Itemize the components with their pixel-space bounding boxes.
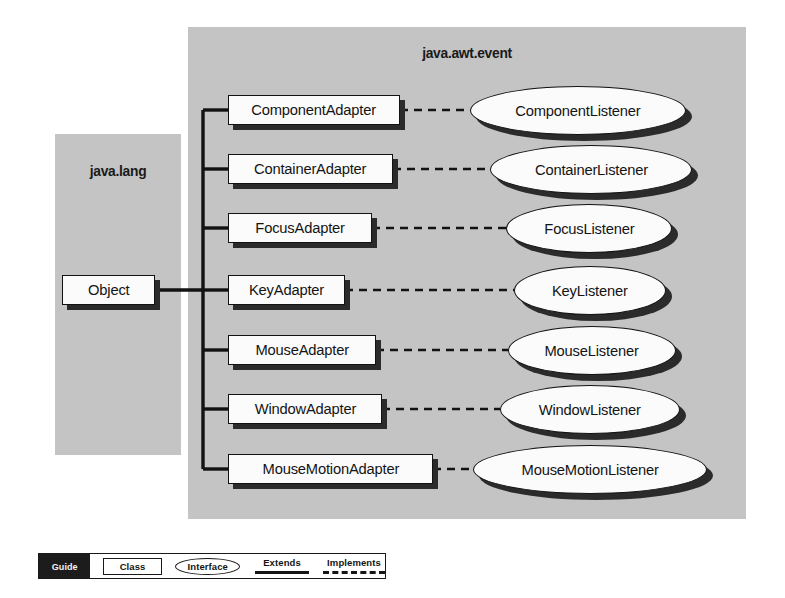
class-label: Object [88,281,129,299]
interface-ellipse: MouseListener [508,326,676,375]
class-box: WindowAdapter [228,394,382,424]
package-title-java-lang: java.lang [60,162,176,179]
legend-bar: Guide Class Interface Extends Implements [38,553,386,579]
class-node-object[interactable]: Object [62,275,155,305]
interface-label: MouseMotionListener [521,461,658,479]
legend-item-extends: Extends [255,554,309,578]
legend-implements-line-icon [323,571,385,574]
class-box: Object [62,275,155,305]
class-label: MouseAdapter [255,341,349,359]
interface-node-container-listener[interactable]: ContainerListener [490,145,692,194]
legend-guide-label: Guide [51,561,77,572]
package-title-java-awt-event: java.awt.event [210,44,723,61]
class-node-window-adapter[interactable]: WindowAdapter [228,394,382,424]
legend-class-swatch: Class [103,558,163,575]
interface-label: WindowListener [539,401,641,419]
class-label: WindowAdapter [254,400,355,418]
interface-label: FocusListener [544,220,634,238]
class-node-focus-adapter[interactable]: FocusAdapter [228,213,372,243]
class-label: MouseMotionAdapter [262,460,399,478]
class-box: ContainerAdapter [228,154,393,184]
class-node-mouse-adapter[interactable]: MouseAdapter [228,335,376,365]
interface-ellipse: ComponentListener [470,86,686,135]
interface-ellipse: ContainerListener [490,145,692,194]
class-label: ContainerAdapter [254,160,366,178]
legend-item-implements: Implements [323,554,385,578]
class-box: KeyAdapter [228,275,345,305]
class-node-key-adapter[interactable]: KeyAdapter [228,275,345,305]
legend-item-interface: Interface [175,554,240,578]
class-box: MouseAdapter [228,335,376,365]
interface-ellipse: MouseMotionListener [473,445,707,494]
interface-ellipse: WindowListener [500,385,680,434]
legend-interface-swatch: Interface [175,558,240,575]
legend-extends-line-icon [255,571,309,574]
interface-ellipse: KeyListener [514,266,666,315]
legend-guide-block: Guide [39,554,90,578]
class-box: ComponentAdapter [228,95,400,125]
interface-label: KeyListener [552,282,628,300]
interface-label: ComponentListener [515,102,640,120]
legend-extends-label: Extends [263,558,301,568]
interface-node-window-listener[interactable]: WindowListener [500,385,680,434]
interface-node-focus-listener[interactable]: FocusListener [506,204,672,253]
class-node-component-adapter[interactable]: ComponentAdapter [228,95,400,125]
interface-node-key-listener[interactable]: KeyListener [514,266,666,315]
class-label: ComponentAdapter [252,101,377,119]
class-node-mouse-motion-adapter[interactable]: MouseMotionAdapter [228,454,433,484]
class-label: KeyAdapter [249,281,324,299]
interface-node-component-listener[interactable]: ComponentListener [470,86,686,135]
interface-node-mouse-motion-listener[interactable]: MouseMotionListener [473,445,707,494]
interface-label: ContainerListener [534,161,647,179]
legend-implements-label: Implements [327,558,381,568]
interface-ellipse: FocusListener [506,204,672,253]
class-label: FocusAdapter [255,219,344,237]
legend-item-class: Class [103,554,163,578]
interface-label: MouseListener [545,342,639,360]
class-box: FocusAdapter [228,213,372,243]
class-box: MouseMotionAdapter [228,454,433,484]
diagram-canvas: java.awt.event java.lang [0,0,785,598]
class-node-container-adapter[interactable]: ContainerAdapter [228,154,393,184]
interface-node-mouse-listener[interactable]: MouseListener [508,326,676,375]
